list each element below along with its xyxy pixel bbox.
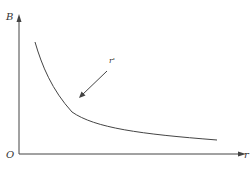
arrow-label: r'	[109, 56, 115, 66]
x-axis-label: r	[244, 150, 249, 160]
decay-curve	[35, 42, 217, 140]
annotation-arrow-shaft	[82, 71, 107, 95]
plot-canvas	[0, 0, 251, 170]
y-axis-arrowhead-icon	[17, 14, 22, 22]
y-axis-label: B	[6, 12, 13, 22]
origin-label: O	[6, 150, 14, 160]
b-versus-r-diagram: B O r r'	[0, 0, 251, 170]
